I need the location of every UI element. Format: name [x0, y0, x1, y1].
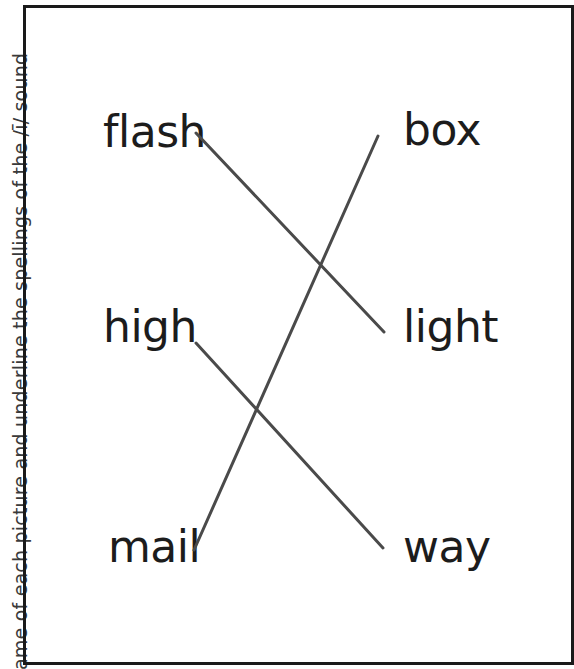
matching-lines [0, 0, 574, 669]
match-line-high-way [196, 343, 383, 548]
match-line-flash-light [196, 133, 384, 332]
match-line-mail-box [194, 136, 378, 550]
